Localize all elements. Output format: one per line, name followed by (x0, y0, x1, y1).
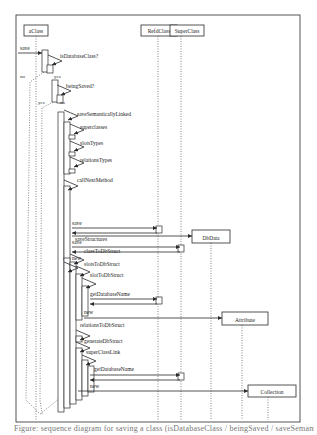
activation-bar (76, 274, 82, 320)
object-label: Attribute (235, 317, 255, 323)
activation-bar (178, 373, 184, 380)
self-call: callNextMethod (64, 177, 113, 190)
message-label: new (84, 309, 93, 315)
self-call: slotsTypes (70, 140, 103, 151)
lifeline-SuperClass: SuperClass (170, 25, 204, 420)
message-call: getDatabaseName (90, 366, 180, 380)
message-label: generateDbStruct (84, 338, 123, 344)
message-label: slotsToDbStruct (84, 261, 120, 267)
object-label: RefdClass (148, 28, 171, 34)
message-call: getDatabaseName (90, 291, 157, 304)
guard-label: no (20, 74, 26, 79)
message-label: getDatabaseName (90, 291, 131, 297)
self-call: beingSaved? (57, 83, 95, 95)
activation-bar (156, 297, 162, 304)
activation-bar (76, 336, 82, 342)
activation-bar (58, 112, 64, 412)
message-label: isDatabaseClass? (60, 53, 99, 59)
message-create: new (78, 383, 248, 391)
self-call: saveSemanticallyLinked (64, 110, 131, 120)
activation-bar (69, 135, 75, 139)
message-label: save (20, 45, 30, 51)
self-call: slotToDbStruct (82, 272, 124, 288)
activation-bar (69, 169, 75, 173)
message-label: callNextMethod (77, 177, 113, 183)
guard-label: no (60, 100, 66, 105)
activation-bar (64, 186, 70, 260)
message-label: superclasses (80, 124, 107, 130)
guard-label: yes (54, 74, 61, 79)
object-label: DbData (202, 235, 220, 241)
message-label: relationsTypes (80, 157, 112, 163)
object-label: aClass (29, 28, 43, 34)
lifeline-RefdClass: RefdClass (141, 25, 177, 420)
activation-bar (70, 262, 76, 404)
self-call: isDatabaseClass? (48, 53, 99, 65)
message-label: getDatabaseName (94, 366, 135, 372)
message-label: slotsTypes (80, 140, 103, 146)
message-call: save (72, 220, 157, 233)
object-label: Collection (261, 389, 284, 395)
sequence-diagram: aClassRefdClassSuperClassDbDataAttribute… (0, 0, 317, 435)
message-call: save (18, 45, 42, 53)
message-label: beingSaved? (66, 83, 95, 89)
activation-bar (47, 65, 53, 73)
activation-bar (64, 258, 70, 408)
message-label: classToDbStruct (84, 248, 121, 254)
lifeline-Collection: Collection (248, 385, 296, 420)
activation-bar (69, 152, 75, 156)
message-create: new (84, 309, 222, 318)
message-label: superClassLink (86, 349, 120, 355)
message-label: slotToDbStruct (90, 272, 124, 278)
activation-bar (76, 348, 82, 400)
message-label: save (72, 239, 82, 245)
join-bottom (40, 398, 60, 414)
lifeline-aClass: aClass (24, 25, 48, 420)
message-label: new (90, 383, 99, 389)
message-label: save (72, 220, 82, 226)
object-label: SuperClass (175, 28, 200, 34)
message-label: relationsToDbStruct (80, 322, 125, 328)
self-call: relationsTypes (70, 157, 112, 167)
self-call: superclasses (70, 124, 107, 134)
message-label: saveSemanticallyLinked (77, 111, 131, 117)
yes-branch-beingSaved (40, 102, 53, 414)
activation-bar (156, 226, 162, 233)
lifeline-Attribute: Attribute (222, 312, 268, 420)
guard-label: yes (38, 100, 45, 105)
figure-caption: Figure: sequence diagram for saving a cl… (14, 424, 314, 433)
activation-bar (178, 245, 184, 252)
activation-bar (64, 122, 70, 174)
message-label: new (72, 255, 81, 261)
